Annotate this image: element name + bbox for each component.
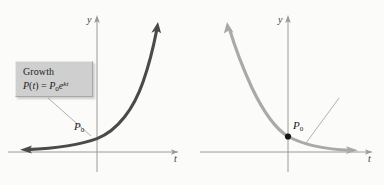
growth-callout-title: Growth	[23, 66, 85, 79]
growth-x-axis-label: t	[174, 153, 177, 164]
decay-x-axis-label: t	[368, 153, 371, 164]
growth-p0-label: P0	[74, 120, 84, 134]
growth-p0-subscript: 0	[81, 126, 85, 134]
growth-panel: y t P0 Growth P(t) = P0ekt	[0, 0, 192, 185]
growth-y-axis-label: y	[87, 14, 91, 25]
growth-callout-box: Growth P(t) = P0ekt	[15, 61, 93, 97]
growth-y-axis	[94, 15, 100, 172]
decay-p0-letter: P	[293, 119, 300, 131]
growth-callout-formula: P(t) = P0ekt	[23, 80, 85, 94]
decay-curve	[224, 22, 358, 154]
decay-p0-subscript: 0	[300, 125, 304, 133]
exponential-growth-decay-figure: y t P0 Growth P(t) = P0ekt	[0, 0, 384, 185]
decay-panel: y t P0 Decay P(t) = P0e−kt	[192, 0, 384, 185]
growth-formula-exponent: kt	[63, 80, 68, 88]
decay-diagram	[192, 0, 384, 185]
decay-y-axis	[285, 15, 291, 172]
decay-y-axis-label: y	[278, 14, 282, 25]
decay-p0-label: P0	[293, 119, 303, 133]
growth-leader-line	[48, 98, 91, 136]
decay-p0-dot	[285, 133, 291, 139]
decay-leader-line	[306, 98, 339, 143]
growth-formula-eq: ) =	[35, 80, 49, 91]
growth-p0-letter: P	[74, 120, 81, 132]
